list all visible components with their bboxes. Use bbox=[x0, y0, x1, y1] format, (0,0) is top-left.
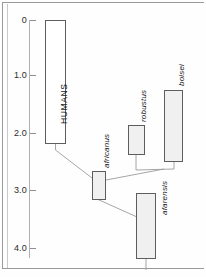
taxon-range-humans[interactable] bbox=[45, 20, 66, 144]
taxon-label-afarensis: afarensis bbox=[160, 181, 169, 215]
taxon-range-boisei[interactable] bbox=[164, 90, 183, 162]
taxon-range-afarensis[interactable] bbox=[136, 193, 156, 259]
taxon-label-robustus: robustus bbox=[139, 90, 148, 122]
branch-africanus-to-boisei-node bbox=[106, 169, 164, 180]
chart-page: 0 1.0 2.0 3.0 4.0 HUMANS bbox=[0, 0, 206, 277]
taxon-label-africanus: africanus bbox=[102, 134, 111, 168]
branch-africanus-to-afarensis bbox=[97, 199, 137, 217]
taxon-label-humans: HUMANS bbox=[59, 84, 69, 124]
taxon-range-africanus[interactable] bbox=[92, 171, 106, 200]
branch-humans-to-node bbox=[56, 150, 93, 178]
taxon-range-robustus[interactable] bbox=[128, 125, 145, 155]
plot-area: 0 1.0 2.0 3.0 4.0 HUMANS bbox=[0, 0, 206, 277]
branch-robust-boisei-join bbox=[136, 169, 174, 170]
taxon-label-boisei: boisei bbox=[177, 64, 186, 86]
